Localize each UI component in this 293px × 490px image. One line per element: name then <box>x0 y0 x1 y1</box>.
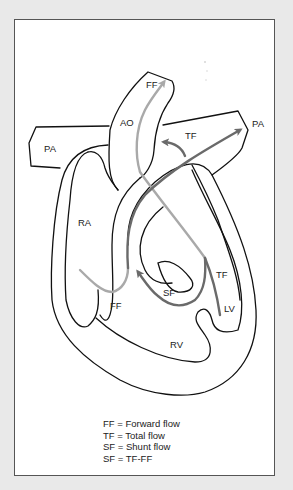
heart-diagram <box>0 0 293 490</box>
legend-row-sf: SF = Shunt flow <box>103 441 180 453</box>
legend-meaning: TF-FF <box>126 453 152 464</box>
legend-row-tf: TF = Total flow <box>103 430 180 442</box>
rv-cavity <box>96 170 242 362</box>
forward-flow-ao <box>137 82 164 172</box>
label-lv: LV <box>224 304 235 314</box>
forward-flow-through <box>140 172 205 258</box>
label-pa-right: PA <box>252 119 264 129</box>
rvot-outer <box>100 178 140 320</box>
lv-septum <box>140 207 172 283</box>
legend-eq: = <box>117 418 123 429</box>
legend-row-sf-formula: SF = TF-FF <box>103 453 180 465</box>
total-flow-lv <box>205 258 220 315</box>
scan-specks <box>204 61 208 81</box>
legend-meaning: Total flow <box>125 430 165 441</box>
shunt-flow <box>138 258 205 306</box>
legend-row-ff: FF = Forward flow <box>103 418 180 430</box>
label-tf-lv: TF <box>216 270 228 280</box>
label-ra: RA <box>78 218 91 228</box>
pa-left-outline <box>29 126 109 168</box>
label-ff-top: FF <box>146 80 158 90</box>
legend-abbr: SF <box>103 441 115 452</box>
label-ao: AO <box>120 118 134 128</box>
legend-abbr: SF <box>103 453 115 464</box>
legend: FF = Forward flow TF = Total flow SF = S… <box>103 418 180 464</box>
label-pa-left: PA <box>44 144 56 154</box>
legend-meaning: Shunt flow <box>126 441 170 452</box>
legend-abbr: TF <box>103 430 115 441</box>
legend-eq: = <box>118 441 124 452</box>
legend-abbr: FF <box>103 418 115 429</box>
rvot-inner <box>128 164 212 245</box>
legend-meaning: Forward flow <box>125 418 179 429</box>
forward-flow-ra <box>80 268 128 292</box>
legend-eq: = <box>117 430 123 441</box>
ra-inner-wall <box>65 152 98 327</box>
total-flow-pa-branch <box>164 142 185 156</box>
label-tf-top: TF <box>185 131 197 141</box>
label-ff-bottom: FF <box>110 301 122 311</box>
label-rv: RV <box>170 340 183 350</box>
label-sf: SF <box>163 288 175 298</box>
legend-eq: = <box>118 453 124 464</box>
